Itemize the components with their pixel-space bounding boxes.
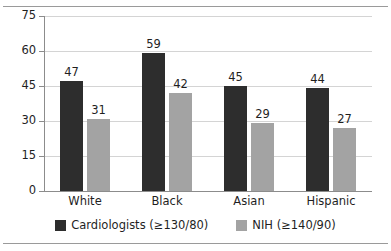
bar[interactable]: 44 bbox=[306, 88, 329, 191]
bar[interactable]: 27 bbox=[333, 128, 356, 191]
bottom-divider-rule bbox=[3, 243, 388, 244]
bar-groups: 4731594245294427 bbox=[44, 16, 372, 191]
x-axis-category-label: White bbox=[49, 192, 121, 212]
bar-group: 4529 bbox=[213, 16, 285, 191]
legend-label: NIH (≥140/90) bbox=[252, 219, 335, 231]
x-axis-category-label: Hispanic bbox=[295, 192, 367, 212]
y-axis-tick-label: 15 bbox=[0, 150, 36, 162]
bar-value-label: 31 bbox=[91, 104, 106, 116]
bar[interactable]: 47 bbox=[60, 81, 83, 191]
chart-legend: Cardiologists (≥130/80)NIH (≥140/90) bbox=[0, 215, 391, 235]
bar-value-label: 44 bbox=[310, 73, 325, 85]
legend-item[interactable]: Cardiologists (≥130/80) bbox=[55, 219, 208, 231]
y-axis-tick-label: 75 bbox=[0, 10, 36, 22]
legend-color-swatch bbox=[55, 220, 66, 231]
bar-value-label: 45 bbox=[228, 71, 243, 83]
bar-group: 5942 bbox=[131, 16, 203, 191]
x-axis-category-labels: WhiteBlackAsianHispanic bbox=[44, 192, 372, 212]
bar[interactable]: 29 bbox=[251, 123, 274, 191]
y-axis-tick-label: 30 bbox=[0, 115, 36, 127]
y-axis-tick-label: 60 bbox=[0, 45, 36, 57]
legend-label: Cardiologists (≥130/80) bbox=[71, 219, 208, 231]
bar-group: 4731 bbox=[49, 16, 121, 191]
bar-value-label: 42 bbox=[173, 78, 188, 90]
bar-group: 4427 bbox=[295, 16, 367, 191]
plot-area: 01530456075 4731594245294427 WhiteBlackA… bbox=[0, 16, 391, 198]
bar[interactable]: 31 bbox=[87, 119, 110, 191]
x-axis-category-label: Asian bbox=[213, 192, 285, 212]
legend-item[interactable]: NIH (≥140/90) bbox=[236, 219, 335, 231]
chart-figure: 01530456075 4731594245294427 WhiteBlackA… bbox=[0, 0, 391, 251]
bar-value-label: 29 bbox=[255, 108, 270, 120]
bar-value-label: 47 bbox=[64, 66, 79, 78]
bar-value-label: 27 bbox=[337, 113, 352, 125]
bar[interactable]: 45 bbox=[224, 86, 247, 191]
bar-value-label: 59 bbox=[146, 38, 161, 50]
bar[interactable]: 59 bbox=[142, 53, 165, 191]
x-axis-category-label: Black bbox=[131, 192, 203, 212]
top-divider-rule bbox=[3, 6, 388, 7]
bar[interactable]: 42 bbox=[169, 93, 192, 191]
legend-color-swatch bbox=[236, 220, 247, 231]
y-axis-tick-label: 0 bbox=[0, 185, 36, 197]
y-axis-tick-labels: 01530456075 bbox=[0, 16, 36, 191]
y-axis-tick-label: 45 bbox=[0, 80, 36, 92]
